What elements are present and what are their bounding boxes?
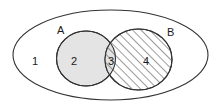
region-label-2: 2 bbox=[71, 55, 77, 67]
set-label-a: A bbox=[57, 24, 65, 36]
set-label-b: B bbox=[167, 26, 174, 38]
region-label-1: 1 bbox=[32, 55, 38, 67]
region-label-3: 3 bbox=[108, 55, 114, 67]
venn-diagram-canvas: A B 1 2 3 4 bbox=[0, 0, 219, 110]
venn-diagram-figure: A B 1 2 3 4 bbox=[0, 0, 219, 110]
region-label-4: 4 bbox=[143, 55, 149, 67]
